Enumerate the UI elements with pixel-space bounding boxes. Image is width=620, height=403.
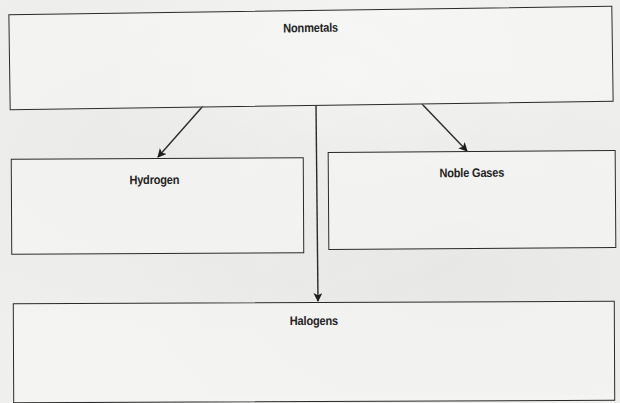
node-halogens: Halogens [13, 301, 615, 403]
node-nonmetals: Nonmetals [8, 6, 613, 110]
arrow-to-hydrogen [158, 106, 203, 157]
node-label-halogens: Halogens [50, 313, 578, 329]
arrow-to-halogens [316, 105, 318, 301]
node-noble-gases: Noble Gases [328, 150, 617, 250]
node-label-nonmetals: Nonmetals [46, 17, 576, 38]
node-label-hydrogen: Hydrogen [29, 172, 280, 187]
node-label-noble-gases: Noble Gases [346, 165, 598, 181]
node-hydrogen: Hydrogen [11, 157, 304, 255]
arrow-to-noble-gases [422, 104, 467, 151]
